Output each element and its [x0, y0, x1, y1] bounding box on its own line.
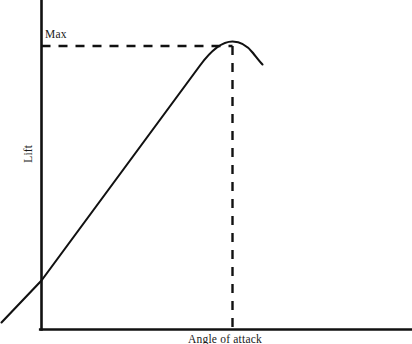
plot-canvas: [0, 0, 412, 344]
max-lift-label: Max: [45, 29, 67, 41]
y-axis-title: Lift: [23, 124, 35, 184]
lift-vs-angle-of-attack-figure: Max Lift Angle of attack: [0, 0, 412, 344]
x-axis-title: Angle of attack: [0, 334, 412, 344]
